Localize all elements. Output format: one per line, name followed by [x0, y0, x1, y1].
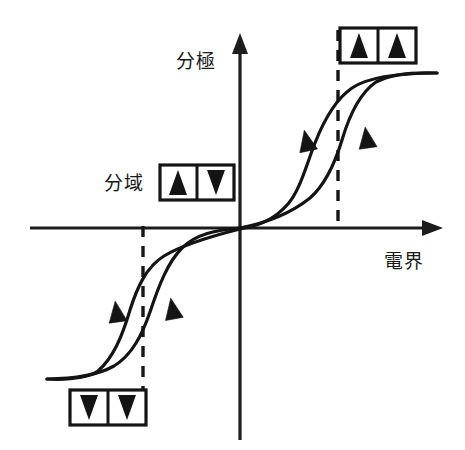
direction-arrow-up-upper-icon [356, 126, 377, 149]
direction-arrow-down-lower-icon [106, 300, 127, 323]
domain-box-up-up [340, 28, 416, 63]
domain-box-down-down [70, 390, 146, 425]
x-axis-label: 電界 [384, 251, 424, 272]
domain-caption-label: 分域 [104, 173, 144, 194]
domain-box-up-down [160, 165, 234, 200]
ascending-branch-curve [47, 73, 437, 379]
direction-arrow-down-upper-icon [295, 128, 317, 152]
hysteresis-figure: 分極 電界 分域 [0, 0, 465, 450]
x-axis-arrowhead-icon [422, 220, 443, 236]
direction-arrow-up-lower-icon [162, 297, 183, 321]
hysteresis-loop-group [47, 73, 437, 380]
y-axis-label: 分極 [176, 51, 216, 72]
axes-group [30, 33, 443, 440]
y-axis-arrowhead-icon [232, 33, 248, 54]
hysteresis-diagram-canvas: 分極 電界 分域 [0, 0, 465, 450]
